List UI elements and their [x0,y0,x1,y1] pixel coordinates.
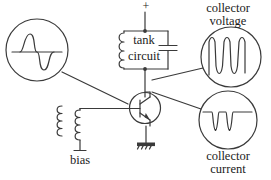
bias-transformer [57,106,86,151]
collector-current-trace [203,112,252,131]
collector-voltage-label-line2: voltage [186,15,270,28]
base-signal-scope [6,19,68,81]
tank-label-line1: tank [122,34,166,47]
chassis-ground [137,143,155,150]
leader-base-scope [62,72,128,104]
leader-collector-voltage [152,68,203,80]
supply-plus-label: + [139,0,153,12]
collector-current-scope [199,91,257,149]
circuit-diagram: + tank circuit bias collector voltage co… [0,0,271,180]
collector-voltage-trace [209,38,245,76]
tank-label-line2: circuit [119,50,169,63]
collector-current-label: collector current [186,150,270,176]
collector-voltage-scope [201,27,261,87]
collector-current-label-line2: current [186,163,270,176]
leader-collector-current [152,92,201,109]
bias-label: bias [52,154,108,167]
collector-voltage-label: collector voltage [186,2,270,28]
